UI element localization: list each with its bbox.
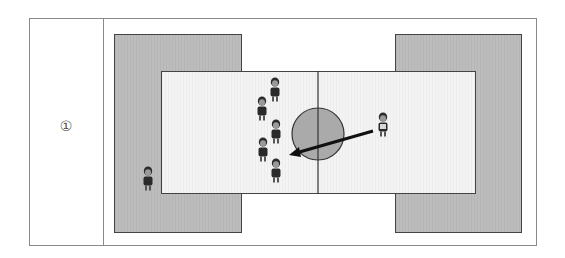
player-left-5 (272, 159, 281, 183)
player-left-2 (258, 97, 267, 121)
player-left-3 (272, 120, 281, 144)
court-overlay (0, 0, 565, 258)
player-outside (144, 167, 153, 191)
player-right (379, 113, 388, 137)
player-left-1 (271, 78, 280, 102)
player-left-4 (259, 138, 268, 162)
